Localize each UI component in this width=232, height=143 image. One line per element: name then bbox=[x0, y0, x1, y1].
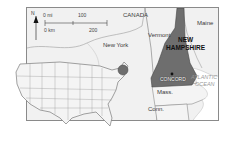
regional-map-frame: N 0 mi 100 0 km 200 CANADA New York Verm… bbox=[26, 7, 219, 121]
north-label: N bbox=[31, 11, 35, 16]
label-concord: CONCORD bbox=[160, 77, 186, 82]
concord-dot bbox=[171, 73, 174, 76]
label-vermont: Vermont bbox=[148, 32, 170, 38]
label-connecticut: Conn. bbox=[148, 106, 164, 112]
scale-km-end: 200 bbox=[89, 28, 97, 33]
north-arrow-head bbox=[34, 16, 39, 23]
label-canada: CANADA bbox=[123, 12, 148, 18]
label-massachusetts: Mass. bbox=[157, 89, 173, 95]
regional-map-shapes bbox=[27, 8, 219, 121]
label-new-york: New York bbox=[103, 42, 128, 48]
label-ocean-line1: ATLANTIC bbox=[191, 75, 217, 81]
scale-miles-end: 100 bbox=[78, 13, 86, 18]
label-nh-line1: NEW bbox=[178, 37, 193, 44]
label-nh-line2: HAMPSHIRE bbox=[166, 45, 205, 52]
label-ocean-line2: OCEAN bbox=[195, 82, 215, 88]
lake-shore bbox=[87, 43, 99, 78]
label-maine: Maine bbox=[197, 20, 213, 26]
scale-km-start: 0 km bbox=[44, 28, 55, 33]
scale-miles-start: 0 mi bbox=[43, 13, 52, 18]
